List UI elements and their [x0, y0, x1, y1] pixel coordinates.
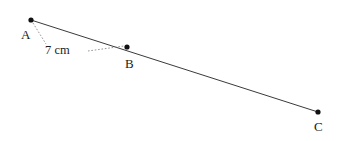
point-label-b: B — [125, 57, 134, 70]
line-segment-ac — [31, 20, 318, 112]
point-marker-a — [28, 17, 33, 22]
point-marker-b — [124, 44, 129, 49]
measurement-label-ab: 7 cm — [45, 44, 70, 57]
figure-canvas — [0, 0, 339, 141]
leader-line-a-to-measure — [33, 23, 46, 44]
geometry-figure: A B C 7 cm — [0, 0, 339, 141]
point-label-a: A — [21, 28, 30, 41]
point-label-c: C — [314, 120, 323, 133]
point-marker-c — [315, 109, 320, 114]
